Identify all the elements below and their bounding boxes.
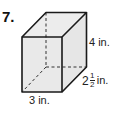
depth-numerator: 1 [90,72,94,80]
front-face [22,37,62,92]
width-label: 3 in. [29,95,50,106]
height-label: 4 in. [89,37,110,48]
depth-unit: in. [97,75,109,86]
depth-denominator: 2 [90,81,94,89]
depth-whole: 2 [82,75,89,87]
depth-label: 2 1 2 in. [82,72,108,89]
rectangular-prism-figure [0,0,127,116]
depth-fraction: 1 2 [90,72,95,89]
